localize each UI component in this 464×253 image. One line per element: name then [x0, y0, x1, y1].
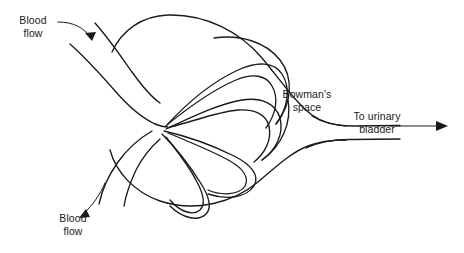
- glomerulus-figure: Blood flow Blood flow Bowman's space To …: [0, 0, 464, 253]
- label-to-urinary-bladder: To urinary bladder: [344, 110, 410, 136]
- label-blood-flow-in: Blood flow: [6, 14, 60, 40]
- blood-flow-out-leader: [83, 183, 105, 214]
- capillary-loop-1-outer: [166, 64, 287, 126]
- afferent-arteriole-upper-edge: [95, 23, 160, 103]
- afferent-arteriole-lower-edge: [70, 44, 155, 124]
- tubule-lower-wall: [306, 139, 400, 148]
- blood-flow-in-leader: [58, 22, 90, 37]
- bowmans-capsule-lower-outline: [110, 140, 346, 206]
- capillary-loop-3-inner: [168, 133, 246, 194]
- capillary-loop-3-outer: [164, 131, 256, 197]
- label-blood-flow-out: Blood flow: [46, 212, 100, 238]
- to-urinary-bladder-arrowhead: [436, 121, 448, 131]
- capillary-loop-4-inner: [166, 137, 203, 213]
- blood-flow-in-arrowhead: [85, 32, 96, 41]
- label-bowmans-space: Bowman's space: [276, 88, 338, 114]
